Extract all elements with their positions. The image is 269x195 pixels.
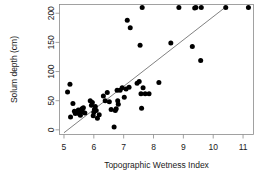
data-point [156, 80, 161, 85]
x-tick-label: 8 [151, 142, 156, 152]
y-axis-title: Solum depth (cm) [9, 36, 19, 103]
data-point [67, 82, 72, 87]
x-axis-title: Topographic Wetness Index [104, 160, 209, 170]
regression-line [64, 6, 227, 133]
x-tick-label: 6 [91, 142, 96, 152]
x-tick-label: 11 [239, 142, 248, 152]
data-point [140, 5, 145, 10]
y-tick-label: 0 [47, 127, 57, 132]
plot-frame [60, 5, 254, 135]
data-point [176, 5, 181, 10]
data-point [128, 25, 133, 30]
y-tick-label: 200 [47, 6, 57, 20]
data-point [97, 112, 102, 117]
y-tick-label: 50 [47, 96, 57, 106]
data-point [125, 18, 130, 23]
data-point [65, 89, 70, 94]
data-point [68, 115, 73, 120]
x-tick-label: 7 [121, 142, 126, 152]
x-tick-label: 10 [208, 142, 218, 152]
data-point [105, 90, 110, 95]
data-point [90, 100, 95, 105]
data-point [122, 95, 127, 100]
data-point [82, 110, 87, 115]
data-point [199, 5, 204, 10]
y-tick-label: 100 [47, 64, 57, 78]
plot-canvas: 567891011050100150200Topographic Wetness… [0, 0, 269, 195]
data-point [114, 106, 119, 111]
data-point [138, 43, 143, 48]
y-tick-label: 150 [47, 35, 57, 49]
data-point [147, 91, 152, 96]
data-point [81, 105, 86, 110]
data-point [168, 40, 173, 45]
data-point [107, 99, 112, 104]
x-tick-label: 5 [62, 142, 67, 152]
data-point [190, 44, 195, 49]
data-point [70, 101, 75, 106]
data-point [141, 85, 146, 90]
data-point [198, 58, 203, 63]
data-point [193, 5, 198, 10]
data-point [139, 106, 144, 111]
data-point [127, 85, 132, 90]
data-point [116, 102, 121, 107]
scatter-plot-figure: 567891011050100150200Topographic Wetness… [0, 0, 269, 195]
data-point [223, 5, 228, 10]
data-point [246, 5, 251, 10]
data-point [101, 94, 106, 99]
data-point [94, 108, 99, 113]
data-point [137, 79, 142, 84]
x-tick-label: 9 [181, 142, 186, 152]
data-point [112, 124, 117, 129]
